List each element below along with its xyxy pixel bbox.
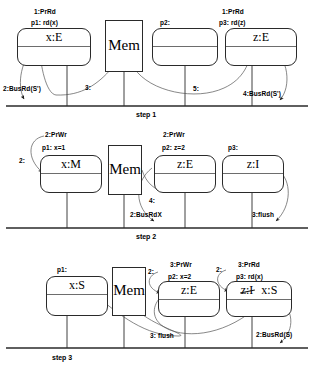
cache-state-s1-c4: z:E — [226, 29, 296, 46]
cache-divider — [18, 46, 90, 47]
proc-label-s1-c4: p3: rd(z) — [219, 19, 246, 26]
proc-label-s3-c4: p3: rd(x) — [236, 273, 263, 280]
event-label-s1-c4: 1:PrRd — [222, 8, 244, 15]
event-label-s3-c3: 3:PrWr — [170, 261, 192, 268]
memory-box-step1[interactable]: Mem — [105, 20, 143, 72]
step-label-1: step 1 — [136, 111, 156, 118]
memory-box-step3[interactable]: Mem — [112, 267, 146, 316]
bus-label-s1-3: 4:BusRd(S') — [243, 90, 281, 97]
cache-state-s3-c1: x:S — [47, 277, 107, 294]
cache-state-s3-c4-group: z:Ix:S — [227, 282, 291, 299]
proc-label-s3-c3: p2: x=2 — [168, 273, 191, 280]
cache-box-p1-step2[interactable]: x:M — [40, 155, 102, 193]
cache-state-s2-c3: z:E — [155, 156, 215, 173]
cache-divider — [153, 46, 217, 47]
event-label-s3-c4: 3:PrRd — [238, 261, 260, 268]
memory-label: Mem — [109, 146, 141, 192]
proc-label-s2-c1: p1: x=1 — [42, 144, 65, 151]
proc-label-s2-c3: p2: z=2 — [162, 144, 185, 151]
cache-state-s3-c4-shared: x:S — [261, 282, 277, 299]
step-label-3: step 3 — [52, 354, 72, 361]
bus-label-s2-2: 2:BusRdX — [130, 211, 162, 218]
cache-divider — [227, 299, 291, 300]
diagram-canvas: 1:PrRd p1: rd(x) x:E Mem p2: 1:PrRd p3: … — [0, 0, 314, 380]
cache-divider — [155, 173, 215, 174]
cache-divider — [41, 173, 101, 174]
cache-state-s3-c4-invalid: z:I — [241, 282, 254, 299]
cache-divider — [226, 46, 296, 47]
cache-box-p3-step1[interactable]: z:E — [225, 28, 297, 66]
cache-box-p2-step1[interactable] — [152, 28, 218, 66]
bus-label-s2-1: 4: — [149, 197, 155, 204]
cache-box-p2-step3[interactable]: z:E — [158, 281, 220, 317]
cache-state-s2-c1: x:M — [41, 156, 101, 173]
bus-label-s1-2: 5: — [193, 85, 199, 92]
cache-state-s3-c3: z:E — [159, 282, 219, 299]
bus-label-s3-3: 2:BusRd(S) — [256, 331, 292, 338]
cache-state-s1-c3 — [153, 29, 217, 46]
memory-box-step2[interactable]: Mem — [108, 145, 142, 195]
cache-box-p3-step2[interactable]: z:I — [222, 155, 284, 193]
proc-label-s3-c1: p1: — [57, 266, 67, 273]
cache-box-p2-step2[interactable]: z:E — [154, 155, 216, 193]
cache-box-p1-step3[interactable]: x:S — [46, 276, 108, 316]
cache-state-s1-c1: x:E — [18, 29, 90, 46]
proc-label-s2-c4: p3: — [228, 144, 238, 151]
bus-label-s2-3: 3:flush — [252, 211, 274, 218]
memory-label: Mem — [113, 268, 145, 313]
cache-divider — [223, 173, 283, 174]
cache-box-p1-step1[interactable]: x:E — [17, 28, 91, 66]
proc-label-s1-c3: p2: — [160, 19, 170, 26]
cache-divider — [159, 299, 219, 300]
bus-label-s1-0: 2:BusRd(S') — [3, 85, 41, 92]
cache-state-s2-c4: z:I — [223, 156, 283, 173]
step-label-2: step 2 — [136, 233, 156, 240]
bus-label-s3-1: 2: — [216, 266, 222, 273]
memory-label: Mem — [106, 21, 142, 69]
bus-label-s2-0: 2: — [19, 157, 25, 164]
event-label-s1-c1: 1:PrRd — [34, 8, 56, 15]
cache-divider — [47, 294, 107, 295]
event-label-s2-c3: 2:PrWr — [163, 131, 185, 138]
proc-label-s1-c1: p1: rd(x) — [31, 19, 58, 26]
bus-label-s3-2: 3: flush — [150, 332, 174, 339]
bus-label-s1-1: 3: — [85, 84, 91, 91]
cache-box-p3-step3[interactable]: z:Ix:S — [226, 281, 292, 317]
bus-label-s3-0: 2: — [148, 268, 154, 275]
event-label-s2-c1: 2:PrWr — [45, 131, 67, 138]
